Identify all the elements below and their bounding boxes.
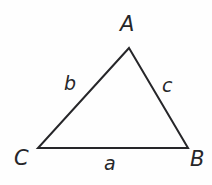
side-label-c: c	[162, 76, 172, 95]
triangle-outline	[38, 48, 188, 148]
triangle-diagram: A B C a b c	[0, 0, 212, 185]
vertex-label-a: A	[120, 14, 134, 35]
side-label-a: a	[104, 154, 116, 173]
vertex-label-c: C	[14, 148, 29, 169]
vertex-label-b: B	[190, 149, 204, 170]
side-label-b: b	[64, 74, 76, 93]
